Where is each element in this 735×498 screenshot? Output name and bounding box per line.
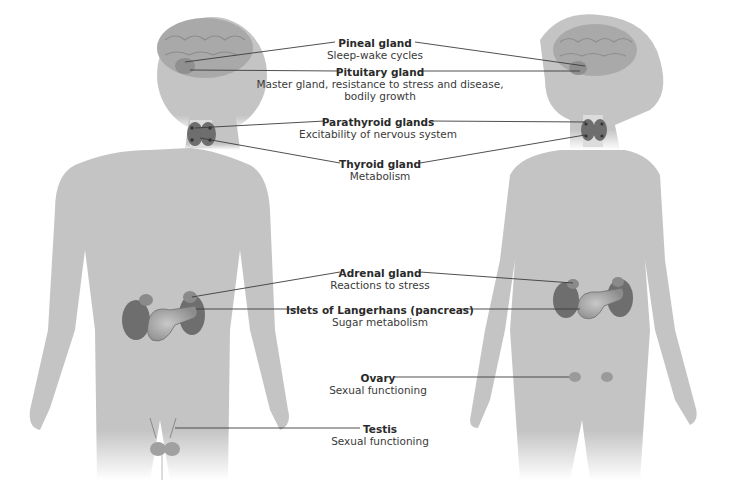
gland-function-line2: bodily growth	[257, 90, 504, 102]
gland-function: Sleep-wake cycles	[327, 49, 423, 61]
gland-name: Ovary	[329, 372, 427, 384]
male-brain	[157, 18, 253, 78]
gland-name: Pineal gland	[327, 37, 423, 49]
gland-function: Reactions to stress	[330, 279, 429, 291]
male-silhouette	[30, 17, 289, 480]
male-thyroid	[187, 120, 216, 148]
label-pineal-gland: Pineal gland Sleep-wake cycles	[327, 37, 423, 61]
gland-function: Master gland, resistance to stress and d…	[257, 78, 504, 90]
label-ovary: Ovary Sexual functioning	[329, 372, 427, 396]
gland-name: Islets of Langerhans (pancreas)	[286, 304, 474, 316]
female-silhouette	[470, 14, 697, 480]
endocrine-system-diagram: Pineal gland Sleep-wake cycles Pituitary…	[0, 0, 735, 498]
gland-function: Excitability of nervous system	[299, 128, 457, 140]
label-parathyroid-glands: Parathyroid glands Excitability of nervo…	[299, 116, 457, 140]
gland-name: Adrenal gland	[330, 267, 429, 279]
label-pituitary-gland: Pituitary gland Master gland, resistance…	[257, 66, 504, 102]
gland-name: Testis	[331, 423, 429, 435]
female-brain	[553, 24, 637, 76]
gland-name: Parathyroid glands	[299, 116, 457, 128]
label-thyroid-gland: Thyroid gland Metabolism	[339, 158, 421, 182]
gland-function: Sugar metabolism	[286, 316, 474, 328]
label-testis: Testis Sexual functioning	[331, 423, 429, 447]
gland-name: Pituitary gland	[257, 66, 504, 78]
gland-function: Sexual functioning	[331, 435, 429, 447]
gland-function: Metabolism	[339, 170, 421, 182]
gland-name: Thyroid gland	[339, 158, 421, 170]
label-islets-of-langerhans: Islets of Langerhans (pancreas) Sugar me…	[286, 304, 474, 328]
gland-function: Sexual functioning	[329, 384, 427, 396]
label-adrenal-gland: Adrenal gland Reactions to stress	[330, 267, 429, 291]
